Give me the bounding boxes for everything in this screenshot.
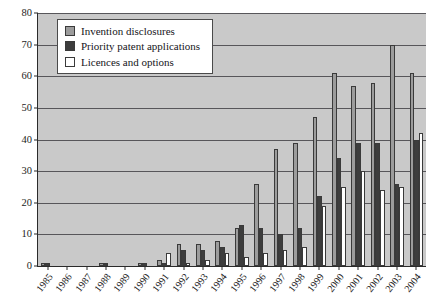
x-axis-tick-label: 1995 — [228, 272, 248, 294]
bar-group — [290, 13, 309, 266]
x-axis-tick-label: 1991 — [151, 272, 171, 294]
x-axis-label-cell: 1990 — [134, 270, 153, 308]
x-axis-tick-label: 1998 — [287, 272, 307, 294]
bar-group — [407, 13, 426, 266]
bar-group — [329, 13, 348, 266]
x-axis-tick-label: 1988 — [93, 272, 113, 294]
x-axis-label-cell: 1997 — [270, 270, 289, 308]
x-axis-tick-label: 1996 — [248, 272, 268, 294]
legend-label: Licences and options — [81, 56, 174, 68]
x-axis-label-cell: 1987 — [76, 270, 95, 308]
x-axis-label-cell: 2001 — [348, 270, 367, 308]
bar — [244, 257, 249, 266]
x-axis-tick-label: 1985 — [34, 272, 54, 294]
x-axis-tick-label: 1993 — [190, 272, 210, 294]
bar — [263, 253, 268, 266]
x-axis-tick-label: 1986 — [54, 272, 74, 294]
x-axis-tick-label: 2000 — [325, 272, 345, 294]
x-axis-label-cell: 2004 — [406, 270, 425, 308]
bar-group — [251, 13, 270, 266]
x-axis-tick-label: 2002 — [364, 272, 384, 294]
x-axis-tick-label: 1992 — [170, 272, 190, 294]
x-axis-label-cell: 1992 — [173, 270, 192, 308]
y-axis-tick-label: 30 — [22, 166, 33, 177]
x-axis-tick-label: 1994 — [209, 272, 229, 294]
x-axis-label-cell: 1986 — [56, 270, 75, 308]
x-axis-label-cell: 1993 — [192, 270, 211, 308]
x-axis-tick-label: 1997 — [267, 272, 287, 294]
bar-group — [387, 13, 406, 266]
x-axis-label-cell: 1995 — [231, 270, 250, 308]
chart-legend: Invention disclosuresPriority patent app… — [57, 19, 213, 74]
bar-group — [271, 13, 290, 266]
bar — [166, 253, 171, 266]
x-axis-tick-label: 2003 — [384, 272, 404, 294]
bar-group — [38, 13, 57, 266]
bar — [399, 187, 404, 266]
legend-item: Priority patent applications — [65, 40, 200, 52]
x-axis-label-cell: 1999 — [309, 270, 328, 308]
x-axis-label-cell: 1996 — [250, 270, 269, 308]
bar — [186, 263, 191, 266]
legend-item: Licences and options — [65, 56, 200, 68]
x-axis-label-cell: 2000 — [328, 270, 347, 308]
bar — [205, 260, 210, 266]
y-axis-tick-label: 20 — [22, 198, 33, 209]
bar — [341, 187, 346, 266]
x-axis-label-cell: 2003 — [386, 270, 405, 308]
x-axis-tick-label: 1989 — [112, 272, 132, 294]
bar — [302, 247, 307, 266]
y-axis-tick-label: 40 — [22, 134, 33, 145]
bar-group — [232, 13, 251, 266]
x-axis-tick-label: 1987 — [73, 272, 93, 294]
x-axis-label-cell: 1988 — [95, 270, 114, 308]
y-axis-tick-label: 10 — [22, 229, 33, 240]
bar — [419, 133, 424, 266]
bar-group — [368, 13, 387, 266]
bar — [380, 190, 385, 266]
bar-group — [310, 13, 329, 266]
bar — [283, 250, 288, 266]
legend-item: Invention disclosures — [65, 25, 200, 37]
x-axis-labels: 1985198619871988198919901991199219931994… — [37, 270, 425, 308]
y-axis-tick-label: 60 — [22, 71, 33, 82]
x-axis-tick-label: 1999 — [306, 272, 326, 294]
x-axis-tick-label: 1990 — [131, 272, 151, 294]
y-axis-tick-label: 80 — [22, 8, 33, 19]
legend-swatch-icon — [65, 26, 75, 36]
x-axis-label-cell: 1985 — [37, 270, 56, 308]
y-axis-tick-label: 0 — [27, 261, 32, 272]
bar-group — [349, 13, 368, 266]
bar-group — [213, 13, 232, 266]
legend-swatch-icon — [65, 57, 75, 67]
y-axis-tick-label: 50 — [22, 103, 33, 114]
x-axis-label-cell: 1994 — [212, 270, 231, 308]
bar — [361, 171, 366, 266]
x-axis-label-cell: 1991 — [153, 270, 172, 308]
x-axis-label-cell: 2002 — [367, 270, 386, 308]
x-axis-tick-label: 2004 — [403, 272, 423, 294]
legend-swatch-icon — [65, 41, 75, 51]
y-axis-tick-label: 70 — [22, 39, 33, 50]
x-axis-label-cell: 1998 — [289, 270, 308, 308]
bar — [225, 253, 230, 266]
x-axis-tick-label: 2001 — [345, 272, 365, 294]
bar — [322, 206, 327, 266]
x-axis-label-cell: 1989 — [115, 270, 134, 308]
bar-chart: 01020304050607080 1985198619871988198919… — [0, 0, 433, 308]
legend-label: Invention disclosures — [81, 25, 175, 37]
legend-label: Priority patent applications — [81, 40, 200, 52]
